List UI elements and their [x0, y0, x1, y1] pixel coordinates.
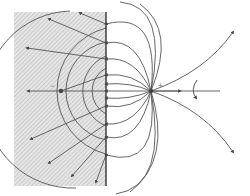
real-field-lines: [106, 2, 161, 194]
diagram-canvas: − +: [0, 0, 250, 196]
field-line-diagram: [0, 0, 250, 196]
shaded-conductor-region: [14, 12, 106, 186]
real-charge: [149, 89, 153, 93]
image-charge-sign: −: [50, 83, 55, 89]
image-charge: [59, 89, 63, 93]
outward-field-lines: [151, 32, 233, 152]
real-charge-sign: +: [158, 82, 163, 88]
curved-arrow-icon: [193, 80, 197, 98]
